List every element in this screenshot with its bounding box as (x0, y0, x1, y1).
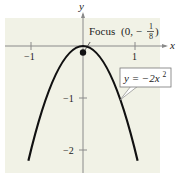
equation-label: y = −2x 2 (123, 70, 166, 84)
y-tick-label-neg2: −2 (63, 145, 74, 156)
focus-label: Focus (0, − (89, 25, 142, 38)
y-axis-label: y (78, 0, 84, 12)
focus-word: Focus (89, 25, 115, 37)
equation-exponent: 2 (162, 70, 166, 79)
x-axis-arrow-icon (162, 44, 168, 48)
focus-fraction-numerator: 1 (149, 22, 153, 31)
y-axis-arrow-icon (81, 12, 85, 18)
focus-coords-close: ) (155, 25, 159, 38)
y-tick-label-neg1: −1 (63, 93, 74, 104)
x-tick-label-1: 1 (132, 51, 137, 62)
parabola-chart: x y −1 1 −1 −2 Focus (0, − 1 8 ) y = −2x… (0, 0, 177, 181)
focus-coords-open: (0, − (121, 25, 142, 38)
focus-point (80, 49, 86, 55)
focus-fraction-denominator: 8 (149, 32, 153, 41)
equation-text: y = −2x (123, 72, 160, 84)
x-axis-label: x (169, 39, 175, 51)
x-tick-label-neg1: −1 (24, 51, 35, 62)
